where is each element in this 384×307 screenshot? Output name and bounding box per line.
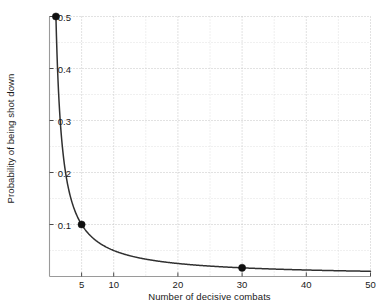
data-series-curve — [56, 17, 371, 272]
y-tick-label: 0.3 — [58, 115, 71, 126]
x-axis-label: Number of decisive combats — [49, 291, 370, 302]
x-tick-label: 5 — [79, 279, 84, 290]
series-line — [56, 17, 371, 272]
x-tick-label: 40 — [301, 279, 312, 290]
data-point-marker — [239, 264, 246, 271]
chart-figure: Probability of being shot down Number of… — [0, 0, 384, 307]
data-point-marker — [78, 221, 85, 228]
x-tick-label: 30 — [237, 279, 248, 290]
x-tick-label: 10 — [108, 279, 119, 290]
y-tick-label: 0.2 — [58, 167, 71, 178]
y-tick-label: 0.5 — [58, 11, 71, 22]
y-tick-label: 0.4 — [58, 63, 71, 74]
x-tick-label: 20 — [173, 279, 184, 290]
grid-minor-lines — [50, 17, 371, 277]
y-tick-label: 0.1 — [58, 219, 71, 230]
chart-plot-area — [0, 0, 384, 307]
x-tick-label: 50 — [365, 279, 376, 290]
